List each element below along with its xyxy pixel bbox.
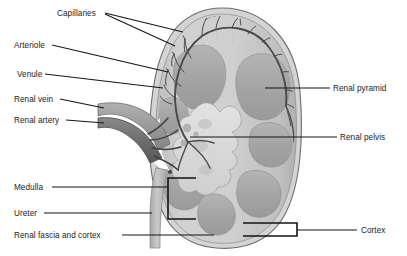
label-venule: Venule — [17, 70, 42, 80]
leader-capillaries-upper — [105, 13, 183, 32]
label-renal-vein: Renal vein — [14, 95, 53, 105]
kidney-diagram-figure: Capillaries Arteriole Venule Renal vein … — [0, 0, 407, 256]
renal-pyramid-right-mid — [249, 122, 292, 167]
label-ureter: Ureter — [14, 209, 37, 219]
label-arteriole: Arteriole — [14, 41, 45, 51]
label-renal-artery: Renal artery — [14, 116, 59, 126]
label-cortex: Cortex — [361, 226, 385, 236]
vessel-junction-node — [168, 170, 172, 174]
label-renal-fascia-and-cortex: Renal fascia and cortex — [14, 231, 101, 241]
label-medulla: Medulla — [14, 183, 43, 193]
label-capillaries: Capillaries — [57, 9, 96, 19]
label-renal-pyramid: Renal pyramid — [333, 84, 386, 94]
renal-pyramid-lower-right — [237, 170, 281, 217]
leader-renal-vein — [60, 99, 104, 108]
leader-arteriole — [52, 45, 168, 72]
label-renal-pelvis: Renal pelvis — [340, 133, 385, 143]
leader-capillaries-lower — [105, 14, 175, 46]
renal-pyramid-bottom-centre — [198, 194, 236, 235]
kidney-anatomy-illustration — [0, 0, 407, 256]
renal-pyramid-upper-right — [236, 54, 290, 120]
leader-venule — [45, 74, 163, 88]
